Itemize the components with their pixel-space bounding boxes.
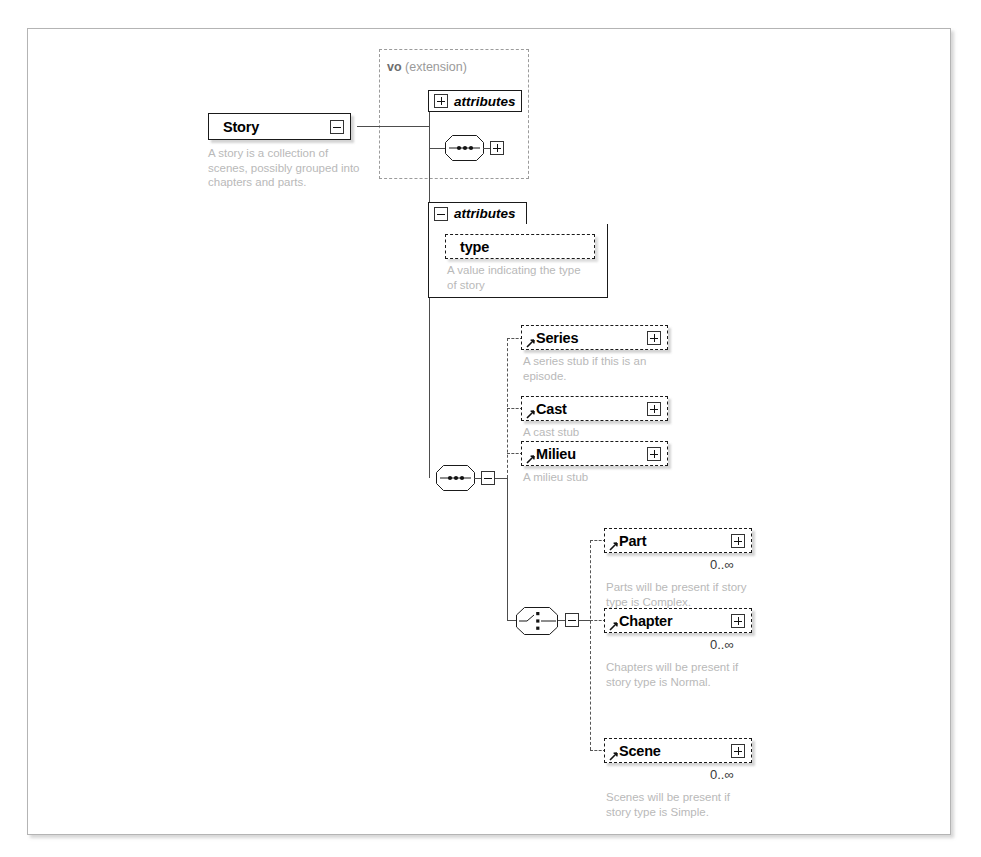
attributes-compartment-label: attributes	[454, 206, 516, 221]
ext-attributes-compartment[interactable]: attributes	[428, 90, 522, 112]
element-scene-description: Scenes will be present if story type is …	[606, 790, 781, 819]
ext-attributes-label: attributes	[454, 94, 516, 109]
element-scene-cardinality: 0..∞	[710, 767, 734, 782]
reference-arrow-icon	[526, 454, 536, 464]
reference-arrow-icon	[526, 338, 536, 348]
plus-icon[interactable]	[731, 744, 745, 758]
plus-icon[interactable]	[434, 94, 448, 108]
plus-icon[interactable]	[490, 141, 504, 155]
minus-icon[interactable]	[481, 471, 495, 485]
attributes-compartment-header[interactable]: attributes	[428, 202, 527, 225]
plus-icon[interactable]	[731, 534, 745, 548]
element-part[interactable]: Part	[604, 528, 752, 553]
reference-arrow-icon	[609, 751, 619, 761]
element-cast-label: Cast	[536, 401, 567, 417]
connector-story-out	[357, 126, 429, 127]
plus-icon[interactable]	[731, 614, 745, 628]
connector-sequence-fanout	[495, 478, 507, 479]
element-chapter-cardinality: 0..∞	[710, 637, 734, 652]
element-part-cardinality: 0..∞	[710, 557, 734, 572]
extension-group-prefix: vo	[387, 60, 402, 74]
element-cast-description: A cast stub	[523, 425, 688, 440]
minus-icon[interactable]	[330, 120, 344, 134]
element-cast[interactable]: Cast	[521, 396, 668, 421]
element-chapter-label: Chapter	[619, 613, 672, 629]
element-scene-label: Scene	[619, 743, 661, 759]
attribute-type-label: type	[460, 239, 489, 255]
choice-compositor[interactable]	[516, 607, 560, 633]
minus-icon[interactable]	[565, 613, 579, 627]
element-part-description: Parts will be present if story type is C…	[606, 580, 781, 609]
attribute-type[interactable]: type	[445, 234, 595, 259]
element-milieu[interactable]: Milieu	[521, 441, 668, 466]
extension-group-label: vo (extension)	[387, 60, 467, 74]
element-series-description: A series stub if this is an episode.	[523, 354, 688, 383]
element-milieu-description: A milieu stub	[523, 470, 688, 485]
element-story-label: Story	[223, 119, 259, 135]
attribute-type-description: A value indicating the type of story	[447, 263, 607, 292]
reference-arrow-icon	[526, 409, 536, 419]
element-story-description: A story is a collection of scenes, possi…	[208, 146, 383, 190]
element-story[interactable]: Story	[208, 113, 351, 140]
plus-icon[interactable]	[647, 331, 661, 345]
extension-group-suffix: (extension)	[405, 60, 467, 74]
element-chapter-description: Chapters will be present if story type i…	[606, 660, 781, 689]
element-scene[interactable]: Scene	[604, 738, 752, 763]
plus-icon[interactable]	[647, 447, 661, 461]
reference-arrow-icon	[609, 541, 619, 551]
connector-choice-fanout	[579, 620, 590, 621]
element-milieu-label: Milieu	[536, 446, 576, 462]
minus-icon[interactable]	[434, 207, 448, 221]
connector-choice-branch-trunk	[590, 540, 591, 750]
reference-arrow-icon	[609, 621, 619, 631]
plus-icon[interactable]	[647, 402, 661, 416]
element-chapter[interactable]: Chapter	[604, 608, 752, 633]
element-series-label: Series	[536, 330, 578, 346]
element-part-label: Part	[619, 533, 646, 549]
connector-to-choice-trunk	[507, 478, 508, 620]
element-series[interactable]: Series	[521, 325, 668, 350]
schema-diagram-canvas: vo (extension) Story A story is a collec…	[0, 0, 981, 857]
